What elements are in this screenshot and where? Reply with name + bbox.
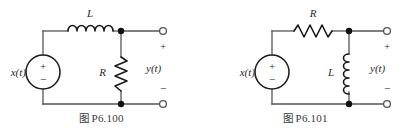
output-plus-sign-left: +: [160, 40, 166, 52]
resistor-label-left: R: [98, 66, 106, 78]
node-dot-bottom-right: [346, 101, 352, 107]
circuit-figure-p6-101: + − x(t) R L + − y(t) 图P6.1: [204, 0, 407, 136]
figure-caption-right: 图P6.101: [204, 110, 407, 125]
source-minus-sign-right: −: [269, 73, 275, 85]
source-minus-sign-left: −: [40, 73, 46, 85]
output-terminal-negative-right[interactable]: [384, 101, 391, 108]
inductor-symbol-right: [344, 54, 350, 94]
circuit-figure-p6-100: + − x(t) L R + − y(t) 图P6.1: [0, 0, 203, 136]
resistor-symbol-left: [115, 57, 127, 91]
source-plus-sign-left: +: [40, 60, 46, 72]
output-terminal-positive-right[interactable]: [384, 28, 391, 35]
resistor-label-right: R: [309, 7, 317, 19]
figure-pair: + − x(t) L R + − y(t) 图P6.1: [0, 0, 407, 136]
node-dot-top-left: [118, 28, 124, 34]
source-plus-sign-right: +: [269, 60, 275, 72]
node-dot-bottom-left: [118, 101, 124, 107]
source-label-left: x(t): [10, 66, 27, 79]
figure-caption-left: 图P6.100: [0, 110, 203, 125]
output-terminal-positive-left[interactable]: [160, 28, 167, 35]
inductor-label-right: L: [327, 66, 334, 78]
output-terminal-negative-left[interactable]: [160, 101, 167, 108]
caption-number-left: P6.100: [92, 112, 124, 124]
output-label-right: y(t): [369, 62, 386, 75]
caption-prefix-left: 图: [79, 112, 91, 124]
output-minus-sign-right: −: [384, 82, 390, 94]
inductor-label-left: L: [86, 7, 93, 19]
node-dot-top-right: [346, 28, 352, 34]
caption-number-right: P6.101: [296, 112, 328, 124]
output-minus-sign-left: −: [160, 82, 166, 94]
resistor-symbol-right: [294, 25, 332, 37]
output-plus-sign-right: +: [384, 40, 390, 52]
caption-prefix-right: 图: [283, 112, 295, 124]
inductor-symbol-left: [68, 26, 113, 31]
output-label-left: y(t): [145, 62, 162, 75]
source-label-right: x(t): [239, 66, 256, 79]
